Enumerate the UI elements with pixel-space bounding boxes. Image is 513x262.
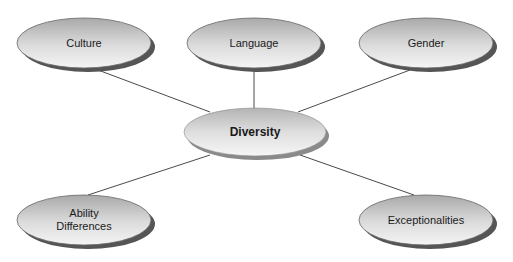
label-gender: Gender bbox=[408, 37, 445, 50]
label-ability-line2: Differences bbox=[56, 220, 111, 233]
label-ability-line1: Ability bbox=[56, 207, 111, 220]
label-language: Language bbox=[230, 37, 279, 50]
label-ability-differences: Ability Differences bbox=[56, 207, 111, 233]
edge-ability-differences bbox=[88, 155, 210, 195]
edge-exceptionalities bbox=[300, 155, 414, 195]
label-exceptionalities: Exceptionalities bbox=[388, 214, 464, 227]
label-culture: Culture bbox=[66, 37, 101, 50]
edge-gender bbox=[298, 70, 410, 112]
edge-culture bbox=[98, 70, 210, 112]
label-diversity: Diversity bbox=[230, 126, 281, 139]
